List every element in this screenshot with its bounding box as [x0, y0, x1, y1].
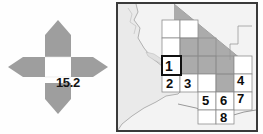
north-petal-icon [45, 20, 71, 57]
map-cell-label-1[interactable]: 1 [165, 59, 173, 73]
map-cell-label-5[interactable]: 5 [202, 94, 209, 107]
map-cell-label-4[interactable]: 4 [237, 74, 244, 87]
map-cell-label-7[interactable]: 7 [237, 92, 244, 105]
reference-map-frame: 1 2 3 4 5 6 7 8 [116, 2, 258, 132]
map-cell-label-3[interactable]: 3 [184, 77, 191, 90]
compass-diagram-svg [0, 0, 116, 134]
reference-map-svg [118, 4, 256, 130]
figure-root: 15.2 [0, 0, 263, 134]
east-petal-icon [71, 57, 108, 77]
map-cell-label-6[interactable]: 6 [220, 94, 227, 107]
west-petal-icon [8, 57, 45, 77]
compass-center-value: 15.2 [48, 75, 88, 91]
map-cell-label-8[interactable]: 8 [220, 111, 227, 124]
map-cell-label-2[interactable]: 2 [166, 77, 173, 90]
compass-diagram-panel: 15.2 [0, 0, 116, 134]
